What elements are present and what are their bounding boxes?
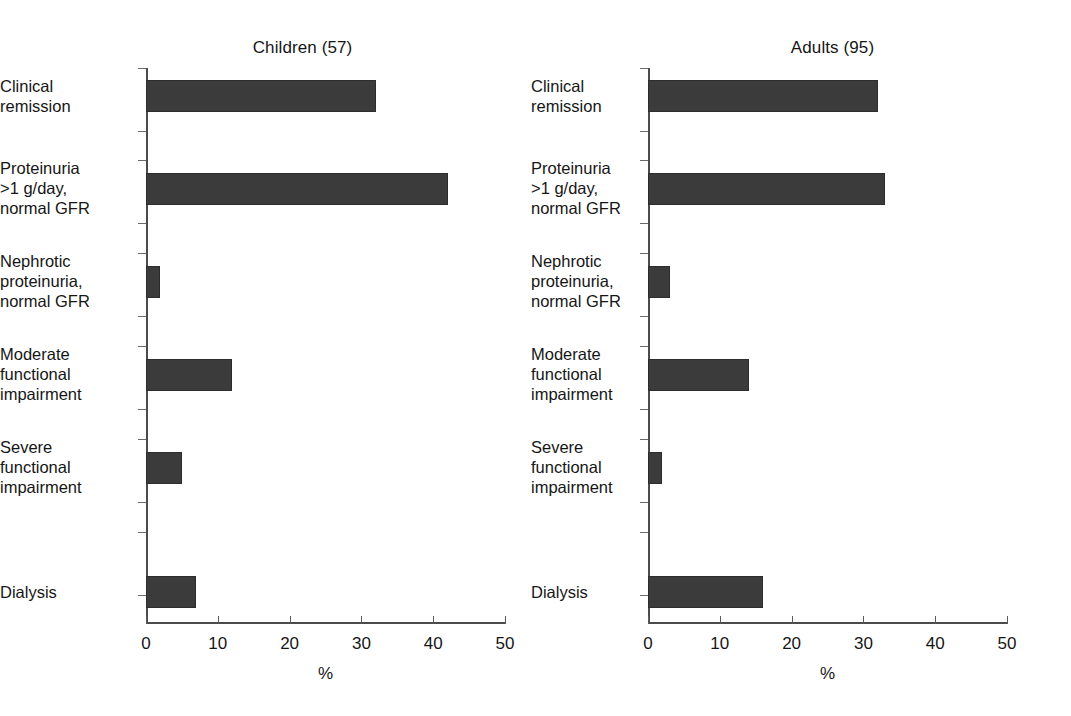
x-tick <box>720 616 721 624</box>
x-tick-label: 30 <box>352 634 371 654</box>
category-label: Dialysis <box>531 582 636 602</box>
x-tick-label: 20 <box>782 634 801 654</box>
bar-adults-3 <box>648 359 749 391</box>
x-tick-label: 30 <box>854 634 873 654</box>
x-tick-label: 10 <box>710 634 729 654</box>
x-tick <box>792 616 793 624</box>
x-axis-adults <box>648 622 1007 624</box>
category-label: Moderate functional impairment <box>531 344 636 404</box>
bar-adults-4 <box>648 452 662 484</box>
y-tick <box>640 502 648 503</box>
plot-area-adults: Clinical remission Proteinuria >1 g/day,… <box>648 68 1007 624</box>
x-tick <box>863 616 864 624</box>
y-tick <box>640 160 648 161</box>
x-tick-label: 10 <box>208 634 227 654</box>
category-label: Severe functional impairment <box>531 437 636 497</box>
chart-title-children: Children (57) <box>0 38 535 58</box>
x-tick <box>218 616 219 624</box>
category-label: Proteinuria >1 g/day, normal GFR <box>0 158 132 218</box>
bar-adults-2 <box>648 266 670 298</box>
category-label: Nephrotic proteinuria, normal GFR <box>531 251 636 311</box>
y-tick <box>138 223 146 224</box>
y-tick <box>640 346 648 347</box>
y-axis-children <box>146 68 148 624</box>
y-tick <box>138 595 146 596</box>
y-tick <box>138 68 146 69</box>
bar-adults-1 <box>648 173 885 205</box>
y-tick <box>138 346 146 347</box>
x-tick <box>146 616 147 624</box>
plot-area-children: Clinical remission Proteinuria >1 g/day,… <box>146 68 505 624</box>
x-tick <box>290 616 291 624</box>
category-label: Moderate functional impairment <box>0 344 132 404</box>
bar-adults-0 <box>648 80 878 112</box>
bar-children-4 <box>146 452 182 484</box>
panel-children: Children (57) Clinical remission Protein… <box>0 0 535 716</box>
bar-adults-5 <box>648 576 763 608</box>
x-tick-label: 50 <box>998 634 1017 654</box>
y-tick <box>138 409 146 410</box>
bar-children-2 <box>146 266 160 298</box>
x-axis-children <box>146 622 505 624</box>
y-tick <box>138 439 146 440</box>
x-tick <box>433 616 434 624</box>
bar-children-5 <box>146 576 196 608</box>
category-label: Severe functional impairment <box>0 437 132 497</box>
x-tick-label: 0 <box>643 634 652 654</box>
category-label: Proteinuria >1 g/day, normal GFR <box>531 158 636 218</box>
chart-title-adults: Adults (95) <box>535 38 1070 58</box>
x-axis-title-children: % <box>318 664 333 684</box>
category-label: Dialysis <box>0 582 132 602</box>
x-tick <box>361 616 362 624</box>
x-tick <box>505 616 506 624</box>
x-axis-title-adults: % <box>820 664 835 684</box>
x-tick <box>935 616 936 624</box>
y-tick <box>640 68 648 69</box>
x-tick-label: 0 <box>141 634 150 654</box>
bar-children-0 <box>146 80 376 112</box>
x-tick <box>1007 616 1008 624</box>
x-tick-label: 50 <box>496 634 515 654</box>
y-tick <box>138 532 146 533</box>
y-tick <box>138 131 146 132</box>
y-axis-adults <box>648 68 650 624</box>
y-tick <box>640 131 648 132</box>
y-tick <box>640 532 648 533</box>
figure-two-panel-bar-charts: Children (57) Clinical remission Protein… <box>0 0 1071 716</box>
x-tick <box>648 616 649 624</box>
y-tick <box>138 160 146 161</box>
x-tick-label: 40 <box>926 634 945 654</box>
y-tick <box>138 253 146 254</box>
panel-adults: Adults (95) Clinical remission Proteinur… <box>535 0 1070 716</box>
y-tick <box>640 595 648 596</box>
category-label: Clinical remission <box>0 76 132 116</box>
y-tick <box>640 409 648 410</box>
y-tick <box>640 223 648 224</box>
x-tick-label: 40 <box>424 634 443 654</box>
y-tick <box>640 316 648 317</box>
y-tick <box>138 316 146 317</box>
y-tick <box>138 502 146 503</box>
bar-children-3 <box>146 359 232 391</box>
category-label: Nephrotic proteinuria, normal GFR <box>0 251 132 311</box>
y-tick <box>640 439 648 440</box>
bar-children-1 <box>146 173 448 205</box>
x-tick-label: 20 <box>280 634 299 654</box>
category-label: Clinical remission <box>531 76 636 116</box>
y-tick <box>640 253 648 254</box>
